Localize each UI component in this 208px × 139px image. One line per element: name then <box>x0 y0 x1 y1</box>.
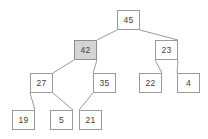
tree-node-5[interactable]: 5 <box>50 110 73 130</box>
tree-edge <box>97 30 117 40</box>
tree-node-45[interactable]: 45 <box>117 10 140 30</box>
tree-node-label: 19 <box>13 111 34 129</box>
tree-node-label: 45 <box>118 11 139 29</box>
tree-edge <box>53 93 73 110</box>
tree-edge <box>140 30 178 40</box>
tree-edge <box>79 93 93 110</box>
tree-node-label: 35 <box>94 74 115 92</box>
tree-edge <box>93 60 97 73</box>
tree-node-label: 42 <box>75 41 96 59</box>
tree-node-23[interactable]: 23 <box>155 40 178 60</box>
tree-node-42[interactable]: 42 <box>74 40 97 60</box>
tree-node-35[interactable]: 35 <box>93 73 116 93</box>
tree-node-label: 21 <box>80 111 101 129</box>
tree-node-27[interactable]: 27 <box>30 73 53 93</box>
tree-node-21[interactable]: 21 <box>79 110 102 130</box>
tree-node-label: 23 <box>156 41 177 59</box>
tree-edge <box>30 93 35 110</box>
tree-node-19[interactable]: 19 <box>12 110 35 130</box>
tree-edge <box>155 60 162 73</box>
tree-node-label: 27 <box>31 74 52 92</box>
tree-node-label: 5 <box>51 111 72 129</box>
tree-edge <box>177 60 178 73</box>
tree-node-label: 22 <box>140 74 161 92</box>
tree-node-4[interactable]: 4 <box>177 73 200 93</box>
binary-tree-diagram: 454223273522419521 <box>0 0 208 139</box>
tree-node-22[interactable]: 22 <box>139 73 162 93</box>
tree-edge <box>53 60 74 73</box>
tree-node-label: 4 <box>178 74 199 92</box>
